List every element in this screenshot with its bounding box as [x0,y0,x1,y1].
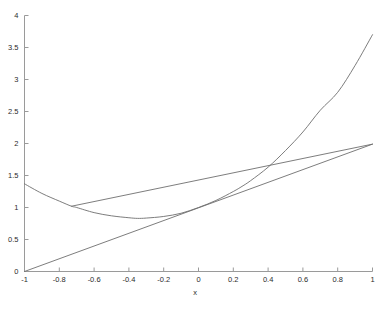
y-tick-label-4: 2 [0,140,19,148]
y-tick-label-8: 4 [0,12,19,20]
series-convex-curve [25,35,373,219]
series-group [25,35,373,272]
y-tick-label-0: 0 [0,268,19,276]
y-tick-label-5: 2.5 [0,108,19,116]
y-tick-label-6: 3 [0,76,19,84]
y-tick-label-1: 0.5 [0,236,19,244]
y-tick-label-7: 3.5 [0,44,19,52]
x-tick-label-10: 1 [353,276,390,284]
y-tick-label-2: 1 [0,204,19,212]
axes-group [25,16,373,272]
series-chord-line [71,144,372,206]
y-tick-label-3: 1.5 [0,172,19,180]
plot-svg [0,0,390,309]
x-axis-label: x [0,289,390,297]
figure-canvas: 00.511.522.533.54 -1-0.8-0.6-0.4-0.200.2… [0,0,390,309]
